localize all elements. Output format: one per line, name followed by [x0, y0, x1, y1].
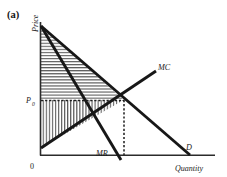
- economics-figure: (a) Price Quantity 0 P 0 MC MR D: [0, 0, 227, 177]
- marginal-cost-label: MC: [157, 63, 171, 72]
- figure-canvas: (a) Price Quantity 0 P 0 MC MR D: [0, 0, 227, 177]
- price-marker-letter: P: [25, 96, 31, 105]
- x-axis-label: Quantity: [175, 164, 203, 173]
- panel-label: (a): [7, 9, 20, 21]
- marginal-revenue-label: MR: [95, 149, 108, 158]
- demand-label: D: [185, 143, 192, 152]
- price-marker-subscript: 0: [32, 101, 35, 107]
- origin-label: 0: [30, 162, 34, 171]
- y-axis-label: Price: [31, 14, 40, 33]
